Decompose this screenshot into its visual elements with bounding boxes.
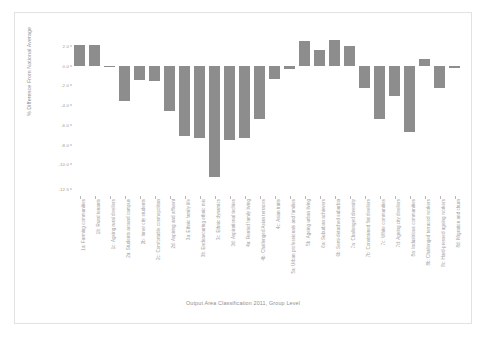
chart-figure: % Difference From National Average 2.00.… xyxy=(0,0,486,337)
x-tick-label: 2a: Students around campus xyxy=(126,199,131,258)
y-tick-label: -6.0 xyxy=(61,122,69,127)
bar xyxy=(269,66,280,80)
bar xyxy=(104,66,115,67)
bar xyxy=(284,66,295,69)
bar xyxy=(299,41,310,66)
x-tick-label: 4b: Challenged Asian terraces xyxy=(261,199,266,261)
x-tick-label: 7a: Challenged diversity xyxy=(351,199,356,248)
x-tick-label: 3c: Ethnic dynamics xyxy=(216,199,221,240)
bar xyxy=(119,66,130,102)
bar xyxy=(209,66,220,178)
bar xyxy=(89,45,100,66)
x-tick-label: 2d: Aspiring and affluent xyxy=(171,199,176,248)
x-tick-label: 6a: Suburban achievers xyxy=(321,199,326,248)
x-tick-label: 4a: Rented family living xyxy=(246,199,251,247)
bar xyxy=(224,66,235,140)
bar xyxy=(434,66,445,89)
x-tick-label: 2b: Inner city students xyxy=(141,199,146,244)
x-tick-label: 8d: Migration and churn xyxy=(456,199,461,247)
x-tick-label: 3d: Aspirational techies xyxy=(231,199,236,246)
bar xyxy=(194,66,205,138)
y-tick-label: -12.5 xyxy=(58,187,69,192)
y-tick-label: 0.0 xyxy=(63,63,69,68)
bar xyxy=(254,66,265,119)
x-tick-label: 1b: Rural tenants xyxy=(96,199,101,234)
bar xyxy=(389,66,400,97)
y-tick-label: -8.0 xyxy=(61,142,69,147)
y-tick-label: -4.0 xyxy=(61,103,69,108)
bar xyxy=(134,66,145,81)
y-tick-label: 2.0 xyxy=(63,43,69,48)
y-axis-tick-labels: 2.00.0-2.0-4.0-6.0-8.0-10.0-12.5 xyxy=(50,36,69,196)
x-tick-label: 8b: Challenged terraced workers xyxy=(426,199,431,266)
x-tick-label: 3a: Ethnic family life xyxy=(186,199,191,240)
x-tick-label: 8c: Hard-pressed ageing workers xyxy=(441,199,446,267)
bar xyxy=(449,66,460,68)
plot-area xyxy=(72,36,462,196)
x-tick-label: 6b: Semi-detached suburbia xyxy=(336,199,341,257)
y-axis-title: % Difference From National Average xyxy=(26,27,32,116)
x-tick-label: 4c: Asian traits xyxy=(276,199,281,229)
bar xyxy=(74,45,85,66)
x-tick-label: 7b: Constrained flat dwellers xyxy=(366,199,371,257)
y-tick-label: -2.0 xyxy=(61,83,69,88)
bar xyxy=(344,46,355,66)
bar xyxy=(314,50,325,66)
x-tick-label: 5a: Urban professionals and families xyxy=(291,199,296,274)
x-tick-label: 5b: Ageing urban living xyxy=(306,199,311,246)
bar-series xyxy=(72,36,462,196)
bar xyxy=(179,66,190,136)
x-tick-label: 1c: Ageing rural dwellers xyxy=(111,199,116,249)
bar xyxy=(239,66,250,138)
bar xyxy=(374,66,385,119)
x-tick-label: 7c: White communities xyxy=(381,199,386,245)
x-tick-label: 8a: Industrious communities xyxy=(411,199,416,256)
x-tick-label: 7d: Ageing city dwellers xyxy=(396,199,401,247)
bar xyxy=(164,66,175,111)
y-tick-label: -10.0 xyxy=(58,162,69,167)
x-axis-tick-labels: 1a: Farming communities1b: Rural tenants… xyxy=(72,199,462,295)
bar xyxy=(359,66,370,89)
x-tick-label: 1a: Farming communities xyxy=(81,199,86,251)
x-tick-label: 3b: Endeavouring ethnic mix xyxy=(201,199,206,257)
x-tick-label: 2c: Comfortable cosmopolitan xyxy=(156,199,161,260)
bar xyxy=(419,59,430,66)
bar xyxy=(404,66,415,132)
bar xyxy=(329,40,340,66)
x-axis-title: Output Area Classification 2011, Group L… xyxy=(0,300,486,306)
bar xyxy=(149,66,160,82)
